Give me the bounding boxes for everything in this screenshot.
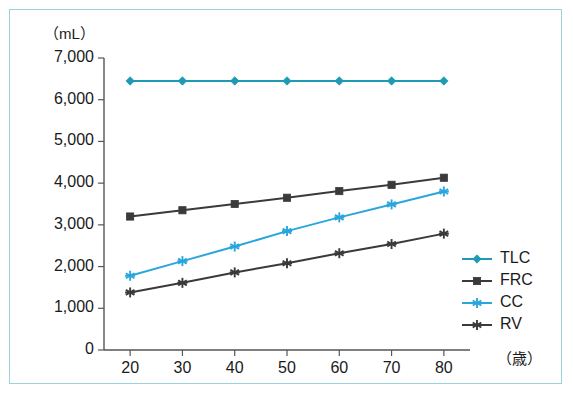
marker-asterisk — [387, 239, 397, 249]
y-axis-tick-label: 7,000 — [32, 48, 94, 66]
marker-diamond — [126, 77, 134, 85]
marker-square — [127, 213, 134, 220]
marker-square — [440, 174, 447, 181]
marker-asterisk — [334, 212, 344, 222]
marker-square — [388, 181, 395, 188]
marker-asterisk — [334, 248, 344, 258]
axis-lines — [98, 58, 470, 356]
legend-label-tlc: TLC — [500, 249, 530, 267]
marker-asterisk — [230, 267, 240, 277]
marker-asterisk — [439, 229, 449, 239]
marker-asterisk — [125, 271, 135, 281]
marker-diamond — [440, 77, 448, 85]
y-axis-tick-label: 4,000 — [32, 173, 94, 191]
marker-square — [473, 277, 480, 284]
chart-figure: （mL） （歳） 01,0002,0003,0004,0005,0006,000… — [0, 0, 573, 395]
series-frc — [127, 174, 448, 220]
y-axis-tick-label: 6,000 — [32, 90, 94, 108]
marker-diamond — [178, 77, 186, 85]
marker-asterisk — [472, 298, 482, 308]
y-axis-tick-label: 3,000 — [32, 215, 94, 233]
marker-square — [336, 187, 343, 194]
marker-asterisk — [125, 287, 135, 297]
y-axis-tick-label: 0 — [32, 340, 94, 358]
data-series-layer — [125, 77, 449, 298]
marker-asterisk — [387, 199, 397, 209]
marker-asterisk — [230, 242, 240, 252]
legend-item-frc — [462, 277, 492, 284]
marker-diamond — [387, 77, 395, 85]
legend-item-tlc — [462, 255, 492, 263]
x-axis-tick-label: 20 — [110, 359, 150, 377]
marker-asterisk — [472, 320, 482, 330]
marker-asterisk — [282, 258, 292, 268]
legend-item-rv — [462, 320, 492, 330]
marker-diamond — [335, 77, 343, 85]
marker-diamond — [473, 255, 481, 263]
legend-label-cc: CC — [500, 293, 523, 311]
marker-diamond — [283, 77, 291, 85]
marker-asterisk — [282, 226, 292, 236]
marker-diamond — [231, 77, 239, 85]
marker-square — [283, 194, 290, 201]
x-axis-tick-label: 40 — [215, 359, 255, 377]
y-axis-tick-label: 2,000 — [32, 257, 94, 275]
marker-asterisk — [177, 278, 187, 288]
marker-asterisk — [177, 256, 187, 266]
marker-asterisk — [439, 186, 449, 196]
series-tlc — [126, 77, 448, 85]
legend-markers — [462, 255, 492, 330]
legend-item-cc — [462, 298, 492, 308]
y-axis-tick-label: 5,000 — [32, 131, 94, 149]
x-axis-tick-label: 70 — [372, 359, 412, 377]
legend-label-frc: FRC — [500, 271, 533, 289]
legend-label-rv: RV — [500, 315, 522, 333]
x-axis-tick-label: 50 — [267, 359, 307, 377]
marker-square — [179, 207, 186, 214]
x-axis-tick-label: 80 — [424, 359, 464, 377]
x-axis-tick-label: 30 — [162, 359, 202, 377]
x-axis-tick-label: 60 — [319, 359, 359, 377]
marker-square — [231, 200, 238, 207]
y-axis-tick-label: 1,000 — [32, 298, 94, 316]
